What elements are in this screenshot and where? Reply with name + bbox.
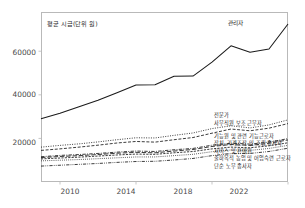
x-tick-label-2014: 2014 xyxy=(106,187,146,196)
series-label-manager: 관리자 xyxy=(228,19,243,27)
series-line-0 xyxy=(41,24,288,119)
y-tick-label-60000: 60000 xyxy=(2,48,36,57)
series-label-jeonmunga: 전문가 xyxy=(214,112,229,118)
series-label-service: 서비스 및 판매원 xyxy=(214,148,252,154)
x-tick-label-2018: 2018 xyxy=(163,187,203,196)
y-tick-label-20000: 20000 xyxy=(2,138,36,147)
chart-figure: 평균 시급(단위 원) 관리자 60000 40000 20000 2010 2… xyxy=(0,0,305,208)
series-label-nongeop: 출하목적 농업 및 어업숙련 근로자 xyxy=(214,155,291,161)
x-tick-label-2022: 2022 xyxy=(219,187,259,196)
x-tick-label-2010: 2010 xyxy=(50,187,90,196)
series-label-samujikwon: 사무직원 보조 근무자 xyxy=(214,120,262,126)
y-axis-unit-note: 평균 시급(단위 원) xyxy=(47,19,98,28)
series-label-jangchi: 장치, 기계조작 및 조립 종사자 xyxy=(214,140,282,146)
series-label-danson: 단순 노무 종사자 xyxy=(214,163,252,169)
chart-canvas xyxy=(0,0,305,208)
y-tick-label-40000: 40000 xyxy=(2,90,36,99)
series-label-ginungwon: 기능원 및 관련 기능근로자 xyxy=(214,133,274,139)
